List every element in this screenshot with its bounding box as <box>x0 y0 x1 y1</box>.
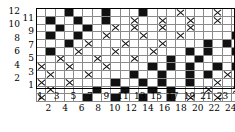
cell-empty[interactable] <box>83 47 92 55</box>
cell-crossed[interactable] <box>129 55 138 63</box>
cell-empty[interactable] <box>129 78 138 86</box>
cell-empty[interactable] <box>92 16 101 24</box>
cell-empty[interactable] <box>148 55 157 63</box>
cell-empty[interactable] <box>176 71 185 79</box>
cell-filled[interactable] <box>231 47 235 55</box>
cell-empty[interactable] <box>37 71 46 79</box>
cell-crossed[interactable] <box>64 63 73 71</box>
cell-empty[interactable] <box>176 55 185 63</box>
cell-empty[interactable] <box>222 47 231 55</box>
cell-empty[interactable] <box>92 78 101 86</box>
cell-empty[interactable] <box>92 63 101 71</box>
cell-empty[interactable] <box>101 24 110 32</box>
cell-filled[interactable] <box>101 9 110 17</box>
cell-empty[interactable] <box>101 47 110 55</box>
cell-empty[interactable] <box>185 32 194 40</box>
cell-empty[interactable] <box>101 40 110 48</box>
cell-empty[interactable] <box>194 63 203 71</box>
cell-filled[interactable] <box>83 24 92 32</box>
cell-empty[interactable] <box>231 24 235 32</box>
cell-empty[interactable] <box>55 47 64 55</box>
cell-empty[interactable] <box>213 71 222 79</box>
cell-empty[interactable] <box>166 71 175 79</box>
cell-empty[interactable] <box>64 47 73 55</box>
cell-empty[interactable] <box>46 55 55 63</box>
cell-empty[interactable] <box>222 78 231 86</box>
cell-empty[interactable] <box>74 9 83 17</box>
cell-empty[interactable] <box>231 16 235 24</box>
cell-filled[interactable] <box>185 71 194 79</box>
cell-empty[interactable] <box>213 32 222 40</box>
cell-crossed[interactable] <box>46 71 55 79</box>
cell-empty[interactable] <box>204 78 213 86</box>
cell-empty[interactable] <box>166 24 175 32</box>
cell-empty[interactable] <box>213 24 222 32</box>
cell-empty[interactable] <box>74 78 83 86</box>
cell-empty[interactable] <box>111 16 120 24</box>
cell-empty[interactable] <box>157 55 166 63</box>
cell-empty[interactable] <box>166 9 175 17</box>
cell-empty[interactable] <box>204 24 213 32</box>
cell-filled[interactable] <box>157 78 166 86</box>
cell-crossed[interactable] <box>129 24 138 32</box>
cell-crossed[interactable] <box>37 78 46 86</box>
cell-filled[interactable] <box>166 63 175 71</box>
cell-filled[interactable] <box>185 47 194 55</box>
cell-empty[interactable] <box>194 9 203 17</box>
cell-empty[interactable] <box>176 63 185 71</box>
cell-empty[interactable] <box>166 78 175 86</box>
cell-empty[interactable] <box>37 40 46 48</box>
cell-empty[interactable] <box>222 63 231 71</box>
cell-filled[interactable] <box>74 16 83 24</box>
cell-empty[interactable] <box>37 55 46 63</box>
cell-crossed[interactable] <box>129 16 138 24</box>
cell-empty[interactable] <box>120 32 129 40</box>
cell-empty[interactable] <box>139 55 148 63</box>
cell-empty[interactable] <box>157 63 166 71</box>
cell-crossed[interactable] <box>101 32 110 40</box>
cell-empty[interactable] <box>139 40 148 48</box>
cell-empty[interactable] <box>92 32 101 40</box>
cell-empty[interactable] <box>46 40 55 48</box>
cell-empty[interactable] <box>64 71 73 79</box>
cell-empty[interactable] <box>55 63 64 71</box>
cell-filled[interactable] <box>185 63 194 71</box>
cell-empty[interactable] <box>194 71 203 79</box>
cell-empty[interactable] <box>194 24 203 32</box>
cell-filled[interactable] <box>55 24 64 32</box>
cell-crossed[interactable] <box>55 55 64 63</box>
cell-crossed[interactable] <box>213 9 222 17</box>
cell-crossed[interactable] <box>185 24 194 32</box>
cell-empty[interactable] <box>194 32 203 40</box>
cell-empty[interactable] <box>166 40 175 48</box>
cell-empty[interactable] <box>129 32 138 40</box>
cell-empty[interactable] <box>213 47 222 55</box>
cell-empty[interactable] <box>129 63 138 71</box>
cell-empty[interactable] <box>46 78 55 86</box>
cell-empty[interactable] <box>204 9 213 17</box>
cell-filled[interactable] <box>148 63 157 71</box>
cell-filled[interactable] <box>46 47 55 55</box>
cell-filled[interactable] <box>213 63 222 71</box>
cell-crossed[interactable] <box>176 32 185 40</box>
cell-filled[interactable] <box>222 40 231 48</box>
cell-empty[interactable] <box>139 16 148 24</box>
cell-empty[interactable] <box>111 32 120 40</box>
cell-crossed[interactable] <box>213 78 222 86</box>
cell-empty[interactable] <box>204 16 213 24</box>
cell-filled[interactable] <box>231 63 235 71</box>
cell-empty[interactable] <box>101 71 110 79</box>
cell-empty[interactable] <box>176 78 185 86</box>
cell-empty[interactable] <box>83 55 92 63</box>
cell-empty[interactable] <box>55 16 64 24</box>
cell-empty[interactable] <box>139 24 148 32</box>
cell-empty[interactable] <box>37 16 46 24</box>
cell-crossed[interactable] <box>74 47 83 55</box>
cell-empty[interactable] <box>120 63 129 71</box>
cell-filled[interactable] <box>139 9 148 17</box>
cell-empty[interactable] <box>74 24 83 32</box>
cell-empty[interactable] <box>37 47 46 55</box>
cell-empty[interactable] <box>74 55 83 63</box>
cell-empty[interactable] <box>204 63 213 71</box>
cell-empty[interactable] <box>83 78 92 86</box>
